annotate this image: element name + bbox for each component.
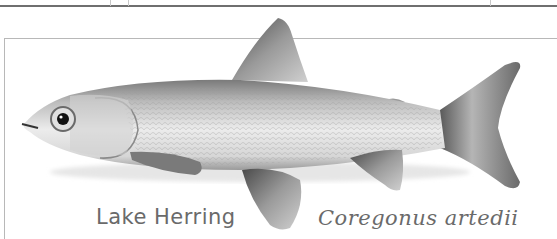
common-name-label: Lake Herring <box>96 205 236 229</box>
pelvic-fin <box>242 169 301 230</box>
lake-herring-fish-image <box>0 0 557 239</box>
scientific-name-label: Coregonus artedii <box>318 206 519 230</box>
fish-illustration-panel: Lake Herring Coregonus artedii <box>0 0 557 239</box>
dorsal-fin <box>232 18 308 82</box>
